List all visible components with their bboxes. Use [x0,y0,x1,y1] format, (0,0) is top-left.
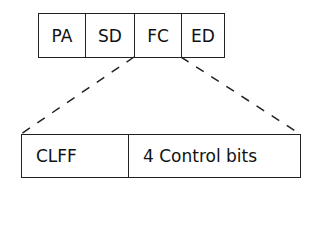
dashed-right-line [181,57,300,134]
fc-breakdown: CLFF 4 Control bits [21,134,301,178]
field-control-bits: 4 Control bits [129,135,300,177]
field-clff: CLFF [22,135,129,177]
dashed-left-line [21,57,134,134]
